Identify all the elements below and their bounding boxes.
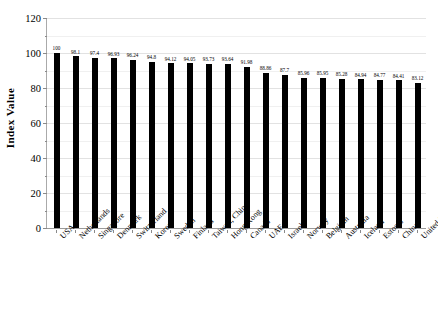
bar-value-label: 96.93 — [108, 52, 120, 57]
bar-slot: 94.8 — [142, 18, 161, 228]
x-tick-mark — [322, 230, 323, 233]
x-tick-mark — [227, 230, 228, 233]
x-tick-label: Norway — [306, 235, 312, 241]
bar-value-label: 94.8 — [147, 55, 156, 60]
bar-value-label: 85.95 — [317, 71, 329, 76]
x-tick-label: Iceland — [363, 235, 369, 241]
bar-value-label: 85.96 — [298, 71, 310, 76]
bar-slot: 85.96 — [294, 18, 313, 228]
bar-slot: 93.73 — [199, 18, 218, 228]
bar-value-label: 98.1 — [71, 50, 80, 55]
bar[interactable] — [206, 64, 212, 228]
bar[interactable] — [358, 79, 364, 228]
bar-value-label: 84.77 — [374, 73, 386, 78]
x-tick-label: Switzerland — [135, 235, 141, 241]
x-tick-mark — [417, 230, 418, 233]
x-axis-labels: USANetherlandsSingaporeDenmarkSwitzerlan… — [46, 230, 426, 309]
bar[interactable] — [396, 80, 402, 228]
y-axis-tick-labels: 020406080100120 — [16, 18, 44, 228]
bar-value-label: 96.24 — [127, 53, 139, 58]
bar[interactable] — [301, 78, 307, 228]
x-tick-mark — [94, 230, 95, 233]
y-tick-label: 100 — [25, 48, 41, 59]
x-tick-label: Denmark — [116, 235, 122, 241]
bar[interactable] — [168, 63, 174, 228]
bar[interactable] — [377, 80, 383, 228]
bar[interactable] — [111, 58, 117, 228]
bar-slot: 84.94 — [351, 18, 370, 228]
x-tick-mark — [189, 230, 190, 233]
y-tick-mark — [43, 228, 47, 229]
plot-area: 10098.197.496.9396.2494.894.1294.0593.73… — [46, 18, 426, 228]
bar[interactable] — [73, 56, 79, 228]
bar-slot: 85.95 — [313, 18, 332, 228]
x-tick-mark — [170, 230, 171, 233]
bar-slot: 87.7 — [275, 18, 294, 228]
y-tick-label: 20 — [31, 188, 42, 199]
bar[interactable] — [92, 58, 98, 228]
x-tick-label: UAE — [268, 235, 274, 241]
x-tick-mark — [379, 230, 380, 233]
bar-slot: 98.1 — [66, 18, 85, 228]
x-tick-mark — [56, 230, 57, 233]
x-tick-mark — [360, 230, 361, 233]
bar-value-label: 88.86 — [260, 66, 272, 71]
bar-slot: 85.28 — [332, 18, 351, 228]
bar[interactable] — [339, 79, 345, 228]
x-tick-label: Finland — [192, 235, 198, 241]
bar[interactable] — [187, 63, 193, 228]
bar-slot: 84.41 — [389, 18, 408, 228]
x-tick-mark — [132, 230, 133, 233]
bar-slot: 83.12 — [408, 18, 427, 228]
x-tick-mark — [246, 230, 247, 233]
bar-slot: 94.12 — [161, 18, 180, 228]
x-tick-label: United Kingdom — [420, 235, 426, 241]
bars-layer: 10098.197.496.9396.2494.894.1294.0593.73… — [47, 18, 426, 228]
bar-slot: 97.4 — [85, 18, 104, 228]
x-tick-mark — [75, 230, 76, 233]
x-tick-label: Estonia — [382, 235, 388, 241]
x-tick-mark — [151, 230, 152, 233]
bar[interactable] — [54, 53, 60, 228]
bar[interactable] — [149, 62, 155, 228]
bar[interactable] — [263, 73, 269, 229]
y-tick-label: 120 — [25, 13, 41, 24]
x-tick-label: Netherlands — [78, 235, 84, 241]
x-tick-mark — [284, 230, 285, 233]
y-tick-label: 40 — [31, 153, 42, 164]
x-tick-label: Singapore — [97, 235, 103, 241]
x-tick-mark — [341, 230, 342, 233]
bar-value-label: 83.12 — [412, 76, 424, 81]
bar-value-label: 85.28 — [336, 72, 348, 77]
bar[interactable] — [225, 64, 231, 228]
x-tick-mark — [208, 230, 209, 233]
bar[interactable] — [282, 75, 288, 228]
bar-slot: 96.93 — [104, 18, 123, 228]
x-tick-label: Hong Kong — [230, 235, 236, 241]
bar-value-label: 91.98 — [241, 60, 253, 65]
y-axis-title-text: Index Value — [4, 87, 16, 147]
x-tick-label: Israel — [287, 235, 293, 241]
x-tick-label: Sweden — [173, 235, 179, 241]
x-tick-label: Australia — [344, 235, 350, 241]
bar-value-label: 93.73 — [203, 57, 215, 62]
bar-value-label: 97.4 — [90, 51, 99, 56]
y-tick-label: 0 — [36, 223, 41, 234]
y-tick-label: 60 — [31, 118, 42, 129]
bar-slot: 96.24 — [123, 18, 142, 228]
bar-value-label: 94.12 — [165, 57, 177, 62]
bar-value-label: 87.7 — [280, 68, 289, 73]
bar-slot: 88.86 — [256, 18, 275, 228]
bar-chart: Index Value 020406080100120 10098.197.49… — [0, 0, 438, 309]
x-tick-mark — [303, 230, 304, 233]
bar-slot: 94.05 — [180, 18, 199, 228]
bar-slot: 91.98 — [237, 18, 256, 228]
x-tick-label: Taiwan, China — [211, 235, 217, 241]
bar-slot: 84.77 — [370, 18, 389, 228]
bar-value-label: 84.41 — [393, 74, 405, 79]
bar[interactable] — [130, 60, 136, 228]
bar-value-label: 93.64 — [222, 57, 234, 62]
x-tick-label: Belgium — [325, 235, 331, 241]
bar[interactable] — [415, 83, 421, 228]
bar[interactable] — [320, 78, 326, 228]
